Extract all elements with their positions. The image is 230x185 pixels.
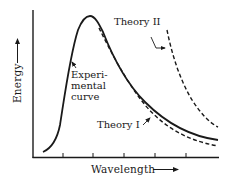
x-axis-label: Wavelength xyxy=(91,163,155,175)
experimental-curve xyxy=(43,16,218,152)
theory-two-curve xyxy=(167,30,218,127)
theory-one-pointer-icon xyxy=(143,118,150,125)
experimental-label-line1: Experi- xyxy=(71,69,108,80)
y-axis-label: Energy xyxy=(11,63,23,103)
axes xyxy=(33,10,220,158)
theory-two-pointer-icon xyxy=(151,37,165,48)
y-axis-label-group: Energy xyxy=(11,39,23,103)
experimental-label-line3: curve xyxy=(71,91,99,102)
experimental-annotation: Experi- mental curve xyxy=(71,62,108,102)
theory-two-label: Theory II xyxy=(114,16,161,27)
theory-one-annotation: Theory I xyxy=(97,118,150,130)
theory-one-label: Theory I xyxy=(97,119,140,130)
experimental-pointer-icon xyxy=(72,62,76,68)
energy-wavelength-chart: Energy Wavelength Theory II Experi- ment… xyxy=(0,0,230,185)
experimental-label-line2: mental xyxy=(71,80,106,91)
x-axis-ticks xyxy=(63,153,186,157)
x-axis-label-group: Wavelength xyxy=(91,163,178,175)
theory-two-annotation: Theory II xyxy=(114,16,165,48)
